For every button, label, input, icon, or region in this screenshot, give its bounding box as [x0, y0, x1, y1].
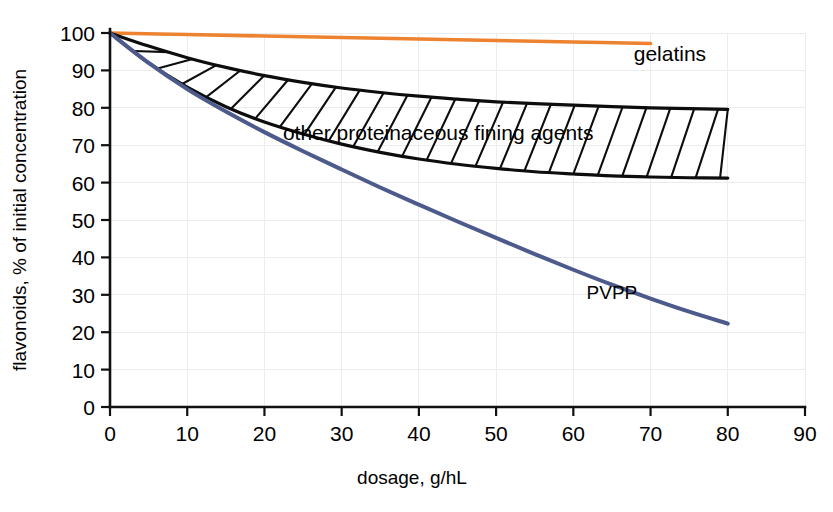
y-tick-label: 70 — [72, 134, 95, 157]
y-tick-label: 10 — [72, 359, 95, 382]
x-tick-label: 50 — [484, 422, 507, 445]
x-tick-label: 80 — [716, 422, 739, 445]
annotation-other-proteinaceous-fining-agents: other proteinaceous fining agents — [283, 121, 594, 144]
y-tick-label: 90 — [72, 59, 95, 82]
x-axis-title: dosage, g/hL — [357, 467, 467, 488]
x-tick-label: 90 — [793, 422, 816, 445]
y-tick-label: 30 — [72, 284, 95, 307]
x-tick-label: 30 — [330, 422, 353, 445]
y-tick-label: 40 — [72, 246, 95, 269]
chart-canvas: 0102030405060708090100 01020304050607080… — [0, 0, 833, 512]
flavonoids-dosage-chart: 0102030405060708090100 01020304050607080… — [0, 0, 833, 512]
y-tick-label: 60 — [72, 172, 95, 195]
x-tick-label: 10 — [176, 422, 199, 445]
x-tick-label: 70 — [639, 422, 662, 445]
y-tick-label: 0 — [83, 396, 95, 419]
y-tick-label: 80 — [72, 97, 95, 120]
y-axis-title: flavonoids, % of initial concentration — [9, 69, 30, 371]
x-tick-label: 40 — [407, 422, 430, 445]
annotation-pvpp: PVPP — [587, 282, 638, 303]
y-tick-label: 20 — [72, 321, 95, 344]
annotation-gelatins: gelatins — [634, 42, 706, 65]
x-tick-label: 20 — [253, 422, 276, 445]
x-tick-label: 60 — [562, 422, 585, 445]
y-tick-label: 100 — [60, 22, 95, 45]
x-tick-label: 0 — [104, 422, 116, 445]
y-tick-label: 50 — [72, 209, 95, 232]
